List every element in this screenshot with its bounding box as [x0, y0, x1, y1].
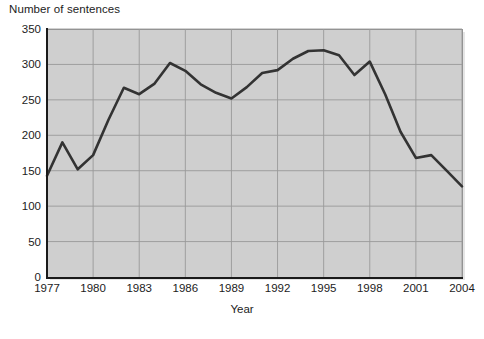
- x-tick-label: 1995: [311, 282, 337, 294]
- x-tick-label: 1992: [265, 282, 291, 294]
- chart-figure: Number of sentences 05010015020025030035…: [0, 0, 484, 339]
- x-tick-label: 2001: [403, 282, 429, 294]
- x-tick-label: 2004: [449, 282, 475, 294]
- x-tick-label: 1986: [173, 282, 199, 294]
- x-axis-tick-labels: 1977198019831986198919921995199820012004: [0, 0, 484, 339]
- x-tick-label: 1998: [357, 282, 383, 294]
- x-tick-label: 1977: [34, 282, 60, 294]
- x-tick-label: 1983: [126, 282, 152, 294]
- x-tick-label: 1989: [219, 282, 245, 294]
- x-tick-label: 1980: [80, 282, 106, 294]
